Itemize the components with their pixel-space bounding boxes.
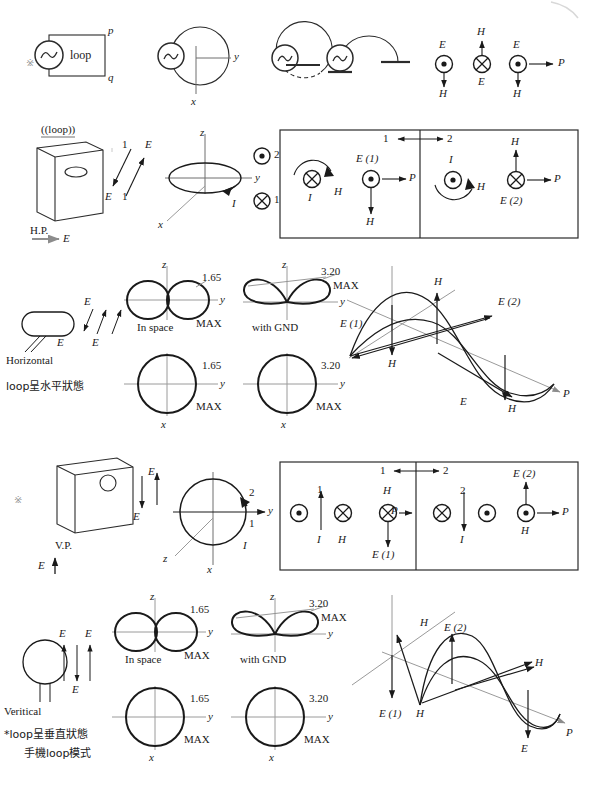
- row5-vertical-loop-icon: [23, 640, 90, 702]
- row4-right-poynting: P: [562, 506, 569, 517]
- row5-p0-max-top: MAX: [184, 650, 210, 661]
- row5-wave-E-low: E: [521, 743, 528, 754]
- row5-p1-axis-y-top: y: [328, 628, 333, 639]
- corner-page-curl: [551, 2, 578, 18]
- row5-wave-H-top: H: [420, 617, 428, 628]
- row5-p0-gain-top: 1.65: [190, 604, 209, 615]
- row2-comparison-panel: [280, 130, 578, 238]
- row3-p0-axis-y-bottom: y: [220, 378, 225, 389]
- row4-mark-2-label: 2: [249, 487, 255, 498]
- row3-p0-axis-x: x: [161, 419, 166, 430]
- row3-wave-poynting: P: [563, 388, 570, 399]
- row3-wave-H-right: H: [508, 403, 516, 414]
- row4-axis-z-label: z: [163, 553, 167, 564]
- row3-wave-H-top: H: [434, 276, 442, 287]
- row5-orientation-note-2: 手機loop模式: [24, 748, 92, 759]
- row1-H-up-label: H: [477, 26, 485, 37]
- row5-p1-caption: with GND: [240, 654, 286, 665]
- row5-wave-H-right: H: [535, 657, 543, 668]
- row5-orientation-note-1: *loop呈垂直狀態: [4, 729, 88, 740]
- row1-field-triad: [436, 41, 554, 87]
- row3-wave-E2: E (2): [498, 296, 520, 307]
- row3-p1-gain-bottom: 3.20: [321, 360, 340, 371]
- terminal-p-label: p: [108, 25, 114, 36]
- row4-mark-1-label: 1: [249, 518, 255, 529]
- row5-p0-max-bottom: MAX: [184, 734, 210, 745]
- row3-orientation-name: Horizontal: [6, 355, 53, 366]
- row2-cross-1-label: 1: [274, 194, 280, 205]
- row1-axis-y-label: y: [234, 51, 239, 62]
- row4-panel-pair-right: 2: [443, 465, 449, 476]
- row3-p1-axis-y-top: y: [340, 296, 345, 307]
- row2-panel-pair-left: 1: [383, 133, 389, 144]
- row5-p0-gain-bottom: 1.65: [190, 693, 209, 704]
- row5-p1-axis-z: z: [270, 591, 274, 602]
- row3-E-c-label: E: [92, 337, 99, 348]
- row4-left-poynting: P: [391, 505, 398, 516]
- row5-E-b-label: E: [85, 628, 92, 639]
- row2-right-poynting: P: [554, 173, 561, 184]
- row4-E-down-label: E: [133, 511, 140, 522]
- row4-left-H-label: H: [338, 534, 346, 545]
- row3-p1-caption: with GND: [252, 322, 298, 333]
- row3-p1-axis-z: z: [282, 259, 286, 270]
- row1-E-mid-label: E: [478, 76, 485, 87]
- row1-axis-x-label: x: [191, 96, 196, 107]
- row2-axis-y-label: y: [255, 172, 260, 183]
- row3-p1-axis-y-bottom: y: [340, 378, 345, 389]
- row2-left-current-I: I: [308, 192, 312, 203]
- row5-orientation-name: Veritical: [4, 706, 41, 717]
- row5-p0-axis-y-top: y: [208, 626, 213, 637]
- row5-p0-caption: In space: [125, 654, 161, 665]
- row3-p1-axis-x: x: [281, 419, 286, 430]
- row3-wave-E-low: E: [460, 396, 467, 407]
- terminal-q-label: q: [108, 72, 114, 83]
- row4-E-up-label: E: [148, 466, 155, 477]
- row4-left-H-top: H: [383, 485, 391, 496]
- row4-left-E-label: E (1): [372, 549, 394, 560]
- row5-p0-axis-x: x: [149, 752, 154, 763]
- row3-E-b-label: E: [57, 337, 64, 348]
- row3-p1-max-bottom: MAX: [316, 401, 342, 412]
- row1-H-right-down-label: H: [513, 88, 521, 99]
- row2-hp-E-label: E: [63, 233, 70, 244]
- row4-bullet-mark: ※: [14, 495, 22, 505]
- row2-E-arrows: [113, 149, 144, 196]
- row4-left-current-I: I: [317, 534, 321, 545]
- row4-axis-x-label: x: [207, 564, 212, 575]
- row1-H-left-down-label: H: [439, 88, 447, 99]
- row2-arrow-1b-label: 1: [122, 191, 128, 202]
- row3-wave-H-low: H: [388, 358, 396, 369]
- row3-p0-axis-z: z: [162, 259, 166, 270]
- row4-right-current-I: I: [460, 534, 464, 545]
- diagram-canvas: [0, 0, 589, 786]
- row5-p1-axis-y-bottom: y: [328, 711, 333, 722]
- row5-E-c-label: E: [72, 684, 79, 695]
- row5-wave-H-low: H: [416, 708, 424, 719]
- row3-p1-max-top: MAX: [333, 280, 359, 291]
- row2-right-current-I: I: [449, 154, 453, 165]
- row2-hp-label: H.P.: [30, 225, 48, 236]
- row5-wave-E1: E (1): [379, 708, 401, 719]
- row2-right-H-curl: H: [477, 181, 485, 192]
- row4-vp-E-label: E: [38, 560, 45, 571]
- row2-left-E-label: E (1): [356, 153, 378, 164]
- row3-p1-gain-top: 3.20: [321, 266, 340, 277]
- row2-E-down-label: E: [105, 191, 112, 202]
- row2-axis-x-label: x: [158, 219, 163, 230]
- row4-phone-box-vertical: [55, 458, 157, 574]
- row1-loop-label: loop: [70, 49, 91, 61]
- row3-horizontal-loop-icon: [22, 309, 121, 352]
- row2-current-I-label: I: [232, 198, 236, 209]
- row3-p0-axis-y-top: y: [220, 294, 225, 305]
- row1-grounded-loop-dashed: [272, 22, 332, 78]
- row4-axis-y-label: y: [268, 505, 273, 516]
- row5-wave-poynting: P: [566, 727, 573, 738]
- row5-p1-axis-x: x: [269, 752, 274, 763]
- diagram-page: ※ loop p q y x E H H E E H P ((loop)) H.…: [0, 0, 589, 786]
- row4-right-E-label: E (2): [513, 468, 535, 479]
- row2-loop-caption: ((loop)): [41, 124, 75, 138]
- row5-p1-max-top: MAX: [321, 612, 347, 623]
- row5-wave-E2: E (2): [444, 622, 466, 633]
- row3-p0-gain-bottom: 1.65: [202, 360, 221, 371]
